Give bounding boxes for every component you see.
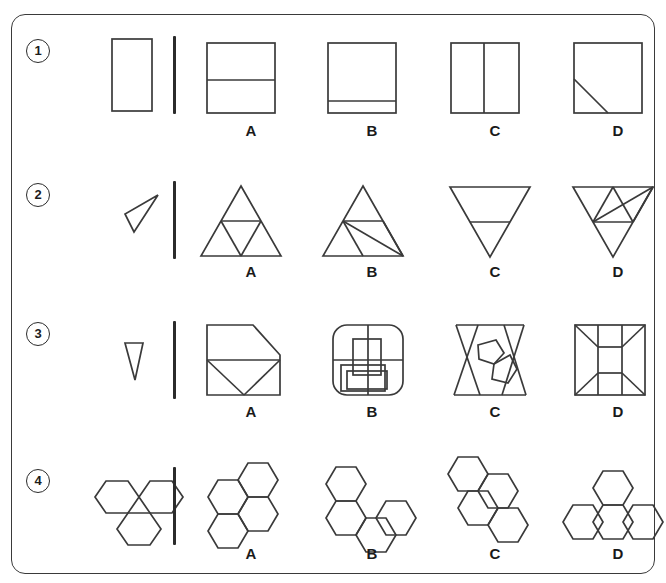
row-3-prompt-shape [108,323,168,393]
row-1-option-a-shape [202,37,282,117]
row-1-option-c-shape [446,37,526,117]
row-3-option-d-shape [569,319,655,399]
row-3-option-a-shape [202,319,288,399]
row-4-option-c-label: C [475,545,515,562]
row-3-option-c-label: C [475,403,515,420]
row-4-option-d-shape [563,467,663,552]
row-4-option-b-shape [324,461,424,546]
puzzle-row-4: 4 [12,437,656,575]
inverted-triangle-with-midline-icon [442,179,532,259]
four-hexagon-cluster-icon [206,457,296,542]
row-3-option-c-shape [448,319,534,399]
row-2-option-c-label: C [475,263,515,280]
row-2-option-d-label: D [598,263,638,280]
triangle-subdivided-four-icon [197,179,287,259]
thin-dart-triangle-icon [108,183,168,253]
row-4-option-b-label: B [352,545,392,562]
row-2-option-b-shape [319,179,409,259]
row-3-option-b-label: B [352,403,392,420]
square-split-horizontal-low-icon [323,37,403,117]
row-1-option-c-label: C [475,122,515,139]
row-2-prompt-shape [108,183,168,253]
row-1-option-a-label: A [231,122,271,139]
four-hexagon-tee-cluster-icon [563,467,663,552]
row-4-option-d-label: D [598,545,638,562]
vertical-rectangle-icon [108,33,168,123]
row-number-1: 1 [26,39,50,63]
row-1-divider [173,36,176,114]
puzzle-row-2: 2 A [12,157,656,297]
row-4-option-a-shape [206,457,296,542]
row-3-option-d-label: D [598,403,638,420]
four-hexagon-diagonal-chain-icon [446,451,546,546]
row-3-divider [173,321,176,399]
row-4-option-a-label: A [231,545,271,562]
triangle-with-crossing-lines-icon [319,179,409,259]
puzzle-row-1: 1 A B [12,15,656,155]
row-2-divider [173,181,176,259]
row-2-option-c-shape [442,179,532,259]
row-4-option-c-shape [446,451,546,546]
row-number-4: 4 [26,469,50,493]
row-1-option-d-label: D [598,122,638,139]
square-with-inner-rectangle-and-diagonals-icon [569,319,655,399]
square-split-horizontal-middle-icon [202,37,282,117]
row-2-option-d-shape [565,179,655,259]
row-2-option-b-label: B [352,263,392,280]
row-number-2: 2 [26,183,50,207]
inverted-triangle-with-crossing-lines-icon [565,179,655,259]
puzzle-sheet: 1 A B [11,14,655,574]
row-2-option-a-shape [197,179,287,259]
row-1-prompt-shape [108,33,168,123]
row-4-prompt-shape [86,473,196,543]
square-split-vertical-icon [446,37,526,117]
puzzle-page: 1 A B [0,0,666,583]
row-1-option-b-label: B [352,122,392,139]
hourglass-with-pentagons-icon [448,319,534,399]
row-1-option-b-shape [323,37,403,117]
three-hexagon-v-cluster-icon [86,473,196,543]
row-3-option-b-shape [327,319,413,399]
square-with-diagonal-corner-icon [569,37,649,117]
four-hexagon-zigzag-icon [324,461,424,546]
narrow-downward-triangle-icon [108,323,168,393]
row-2-option-a-label: A [231,263,271,280]
rounded-square-with-overlapping-rectangles-icon [327,319,413,399]
row-4-divider [173,467,176,545]
puzzle-row-3: 3 A [12,297,656,437]
row-3-option-a-label: A [231,403,271,420]
row-number-3: 3 [26,322,50,346]
envelope-pentagon-shape-icon [202,319,288,399]
row-1-option-d-shape [569,37,649,117]
